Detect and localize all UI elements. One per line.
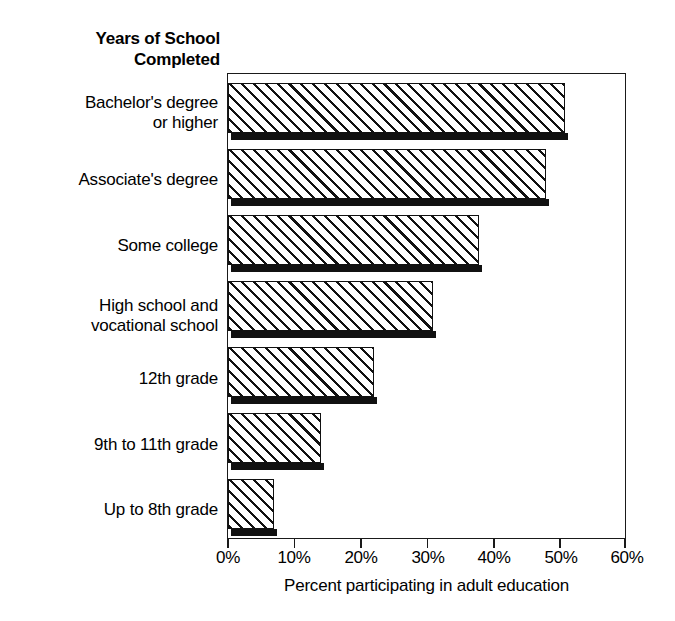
bar-group-up-to-8th [228,479,625,529]
bar-bachelors [228,83,565,133]
x-tick-label-50: 50% [526,548,596,568]
x-tick-label-0: 0% [193,548,263,568]
plot-area [227,73,626,539]
category-label-bachelors: Bachelor's degree or higher [0,93,218,133]
x-axis-tick-labels: 0% 10% 20% 30% 40% 50% 60% [0,548,675,572]
x-tick-40 [493,539,495,548]
bar-shadow [231,133,568,140]
bar-group-high-school [228,281,625,331]
category-label-high-school: High school and vocational school [0,296,218,336]
x-tick-label-30: 30% [393,548,463,568]
bar-shadow [231,265,482,272]
bar-shadow [231,199,549,206]
bar-9th-to-11th [228,413,321,463]
bar-some-college [228,215,479,265]
bar-shadow [231,331,436,338]
x-tick-60 [624,539,626,548]
x-axis-title: Percent participating in adult education [227,576,626,596]
x-tick-30 [427,539,429,548]
x-tick-label-60: 60% [592,548,662,568]
category-label-9th-to-11th: 9th to 11th grade [0,435,218,455]
category-label-up-to-8th: Up to 8th grade [0,500,218,520]
category-label-some-college: Some college [0,236,218,256]
bar-group-some-college [228,215,625,265]
bar-group-associates [228,149,625,199]
bar-12th-grade [228,347,374,397]
bar-group-12th-grade [228,347,625,397]
category-label-12th-grade: 12th grade [0,369,218,389]
bar-shadow [231,463,324,470]
bar-group-9th-to-11th [228,413,625,463]
category-label-associates: Associate's degree [0,170,218,190]
x-tick-label-40: 40% [459,548,529,568]
x-tick-label-20: 20% [326,548,396,568]
bar-shadow [231,397,377,404]
x-tick-10 [294,539,296,548]
bar-chart: Years of School Completed Bachelor's deg… [0,0,675,621]
bar-associates [228,149,546,199]
bar-up-to-8th [228,479,274,529]
x-tick-label-10: 10% [259,548,329,568]
bar-shadow [231,529,277,536]
x-tick-50 [559,539,561,548]
x-tick-20 [360,539,362,548]
chart-title: Years of School Completed [20,28,220,70]
bar-group-bachelors [228,83,625,133]
bar-high-school [228,281,433,331]
x-tick-0 [227,539,229,548]
